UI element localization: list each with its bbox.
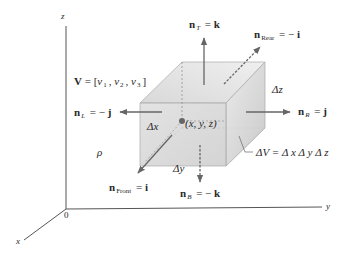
normal-top-label: nT = k <box>189 19 220 32</box>
delta-y-label: Δy <box>173 163 184 174</box>
origin-label: 0 <box>64 211 69 220</box>
y-axis-label: y <box>326 202 330 211</box>
z-axis-label: z <box>61 12 65 21</box>
delta-z-label: Δz <box>272 84 283 95</box>
x-axis <box>24 209 66 240</box>
volume-element-label: ΔV = Δ x Δ y Δ z <box>256 147 328 158</box>
y-axis <box>66 207 322 209</box>
normal-left-label: nL = − j <box>74 107 111 120</box>
normal-bottom-label: nB = − k <box>180 188 220 201</box>
x-axis-label: x <box>16 237 20 246</box>
density-label: ρ <box>97 147 102 158</box>
divergence-control-volume-figure: z y x 0 V = [v1, v2, v3] ρ nT = k nRear … <box>0 0 358 255</box>
normal-rear-label: nRear = − i <box>254 29 300 42</box>
diagram-graphics <box>0 0 358 255</box>
normal-front-label: nFront = i <box>109 182 148 195</box>
delta-x-label: Δx <box>147 121 158 132</box>
normal-right-label: nR = j <box>298 106 327 119</box>
velocity-vector-label: V = [v1, v2, v3] <box>74 76 146 89</box>
point-xyz-label: (x, y, z) <box>185 118 217 129</box>
